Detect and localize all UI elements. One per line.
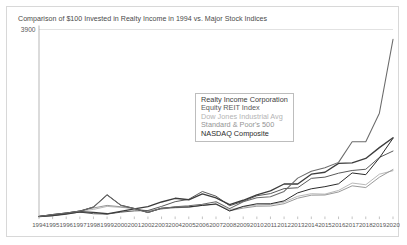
x-tick-label: 2005 [182, 221, 196, 228]
x-tick-label: 2001 [128, 221, 142, 228]
x-tick-label: 1998 [87, 221, 101, 228]
chart-card: Comparison of $100 Invested in Realty In… [6, 6, 399, 237]
x-tick-label: 2012 [277, 221, 291, 228]
x-tick-label: 2018 [359, 221, 373, 228]
x-tick-label: 2008 [223, 221, 237, 228]
x-tick-label: 2019 [373, 221, 387, 228]
x-tick-label: 1994 [32, 221, 46, 228]
series-line [39, 171, 393, 217]
x-tick-label: 2016 [332, 221, 346, 228]
x-tick-label: 2002 [141, 221, 155, 228]
x-tick-label: 2017 [345, 221, 359, 228]
x-tick-label: 2010 [250, 221, 264, 228]
x-tick-label: 2014 [305, 221, 319, 228]
x-tick-label: 1999 [100, 221, 114, 228]
x-tick-label: 1995 [46, 221, 60, 228]
y-tick-label: 3900 [21, 26, 36, 33]
x-tick-label: 2006 [196, 221, 210, 228]
x-tick-label: 2009 [236, 221, 250, 228]
x-tick-label: 2004 [168, 221, 182, 228]
x-tick-label: 2007 [209, 221, 223, 228]
x-tick-label: 2020 [386, 221, 400, 228]
x-tick-label: 2011 [264, 221, 278, 228]
x-tick-label: 2015 [318, 221, 332, 228]
x-tick-label: 2000 [114, 221, 128, 228]
x-tick-label: 1997 [73, 221, 87, 228]
legend-item-nasdaq: NASDAQ Composite [201, 130, 288, 139]
x-tick-label: 2003 [155, 221, 169, 228]
x-tick-label: 2013 [291, 221, 305, 228]
x-tick-label: 1996 [59, 221, 73, 228]
chart-legend: Realty Income Corporation Equity REIT In… [195, 93, 294, 142]
